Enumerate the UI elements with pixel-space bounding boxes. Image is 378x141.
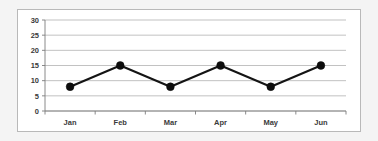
x-axis-label-jan: Jan [64, 118, 77, 127]
data-point-may[interactable] [267, 83, 275, 91]
data-point-feb[interactable] [116, 62, 124, 70]
data-point-jan[interactable] [66, 83, 74, 91]
data-point-apr[interactable] [217, 62, 225, 70]
y-axis-label-15: 15 [31, 61, 39, 70]
y-axis-label-10: 10 [31, 76, 39, 85]
data-point-mar[interactable] [167, 83, 175, 91]
data-point-jun[interactable] [317, 62, 325, 70]
x-axis-label-apr: Apr [214, 118, 227, 127]
series-line-series-1 [70, 66, 321, 87]
y-axis-label-0: 0 [35, 107, 39, 116]
x-axis-label-feb: Feb [114, 118, 128, 127]
y-axis-label-25: 25 [31, 31, 39, 40]
line-chart: 051015202530JanFebMarAprMayJun [18, 10, 360, 131]
chart-frame: 051015202530JanFebMarAprMayJun [17, 9, 361, 132]
x-axis-label-may: May [263, 118, 278, 127]
y-axis-label-30: 30 [31, 16, 39, 25]
y-axis-label-5: 5 [35, 92, 39, 101]
x-axis-label-jun: Jun [314, 118, 328, 127]
chart-page: 051015202530JanFebMarAprMayJun [0, 0, 378, 141]
y-axis-label-20: 20 [31, 46, 39, 55]
x-axis-label-mar: Mar [164, 118, 177, 127]
